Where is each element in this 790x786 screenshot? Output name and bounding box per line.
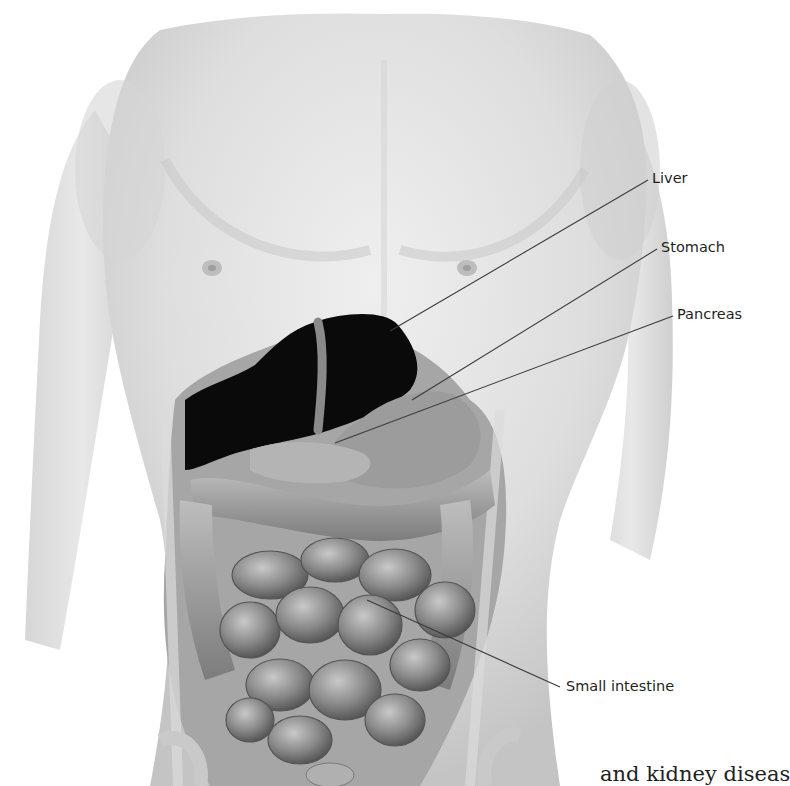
label-pancreas: Pancreas [677, 307, 742, 322]
label-small-intestine: Small intestine [566, 679, 674, 694]
label-stomach: Stomach [661, 240, 725, 255]
label-liver: Liver [652, 171, 688, 186]
body-text-fragment: and kidney diseas [600, 764, 790, 785]
